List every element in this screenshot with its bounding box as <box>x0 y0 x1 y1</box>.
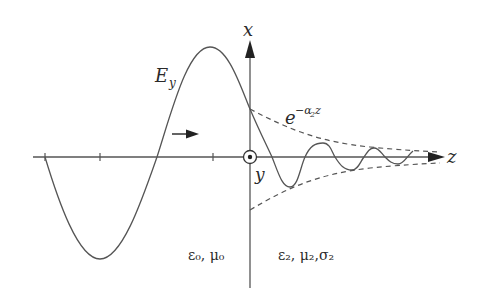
x-axis-label: x <box>243 19 253 40</box>
envelope-formula-label: e −α 2 z <box>285 104 321 128</box>
diagram-canvas: x z y E y e −α 2 z ε₀, μ₀ ε₂, μ₂,σ₂ <box>0 0 489 304</box>
z-axis <box>33 152 445 162</box>
propagation-arrow-icon <box>172 130 199 139</box>
medium-left-label: ε₀, μ₀ <box>188 247 225 263</box>
upper-envelope-dashed <box>250 109 440 152</box>
svg-text:y: y <box>168 76 176 90</box>
medium-right-label: ε₂, μ₂,σ₂ <box>278 247 334 263</box>
z-axis-label: z <box>446 146 457 167</box>
incident-wave-curve <box>45 47 250 259</box>
field-label: E y <box>154 65 176 90</box>
svg-text:z: z <box>314 104 321 117</box>
y-axis-label: y <box>254 164 265 184</box>
y-axis-out-of-page-icon <box>244 151 257 164</box>
svg-text:E: E <box>154 65 168 86</box>
lower-envelope-dashed <box>250 163 440 210</box>
